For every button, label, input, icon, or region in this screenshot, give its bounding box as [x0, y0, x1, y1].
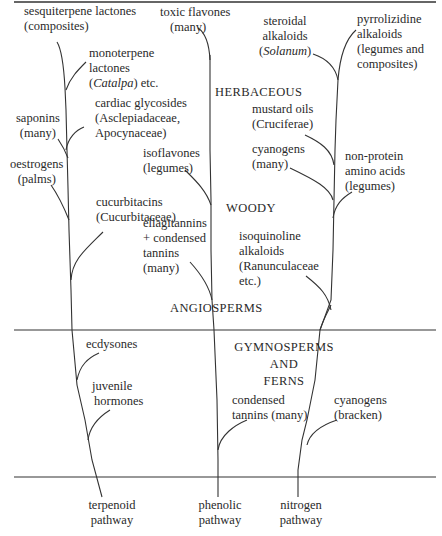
label-sesquiterpene-lactones: sesquiterpene lactones (composites): [24, 4, 136, 34]
branch-oestrogens: [51, 185, 69, 220]
label-juvenile-hormones: juvenile hormones: [92, 379, 143, 409]
label-monoterpene-lactones: monoterpene lactones (Catalpa) etc.: [89, 46, 158, 91]
label-toxic-flavones: toxic flavones (many): [160, 5, 230, 35]
section-gymnosperms-and-ferns: GYMNOSPERMS AND FERNS: [224, 339, 344, 390]
branch-cucurbitacins: [71, 232, 103, 280]
branch-cyanogens-bracken: [307, 420, 337, 445]
branch-steroidal: [313, 54, 338, 80]
tree-lines: [0, 0, 442, 536]
label-non-protein-amino-acids: non-protein amino acids (legumes): [345, 149, 405, 194]
label-phenolic-pathway: phenolic pathway: [192, 498, 248, 528]
branch-juvenile: [88, 410, 110, 440]
label-cardiac-glycosides: cardiac glycosides (Asclepiadaceae, Apoc…: [95, 96, 187, 141]
label-cyanogens-bracken: cyanogens (bracken): [334, 393, 387, 423]
branch-sesquiterpene: [57, 42, 65, 88]
label-cyanogens-many: cyanogens (many): [252, 142, 305, 172]
branch-non-protein: [333, 192, 352, 218]
label-pyrrolizidine-alkaloids: pyrrolizidine alkaloids (legumes and com…: [357, 12, 424, 72]
label-isoquinoline-alkaloids: isoquinoline alkaloids (Ranunculaceae et…: [239, 229, 319, 289]
phenolic-trunk: [210, 55, 218, 497]
branch-monoterpene: [66, 62, 86, 90]
label-ellagitannins: ellagitannins + condensed tannins (many): [143, 216, 207, 276]
label-isoflavones: isoflavones (legumes): [143, 146, 200, 176]
branch-ecdysones: [77, 353, 99, 380]
label-ecdysones: ecdysones: [86, 337, 137, 352]
branch-cardiac: [66, 127, 84, 150]
terpenoid-trunk: [65, 88, 102, 497]
branch-mustard: [305, 135, 334, 165]
label-nitrogen-pathway: nitrogen pathway: [273, 498, 329, 528]
branch-condensed-tannins: [218, 420, 247, 450]
secondary-compound-evolution-diagram: sesquiterpene lactones (composites) mono…: [0, 0, 442, 536]
label-steroidal-alkaloids: steroidal alkaloids (Solanum): [259, 14, 311, 59]
bridge-curve: [320, 305, 331, 330]
label-oestrogens: oestrogens (palms): [10, 157, 63, 187]
section-herbaceous: HERBACEOUS: [215, 84, 302, 101]
label-condensed-tannins: condensed tannins (many): [232, 393, 307, 423]
label-terpenoid-pathway: terpenoid pathway: [82, 498, 142, 528]
section-woody: WOODY: [226, 200, 276, 217]
label-saponins: saponins (many): [16, 111, 60, 141]
branch-cyanogens-many: [290, 168, 333, 200]
section-angiosperms: ANGIOSPERMS: [170, 300, 263, 317]
branch-pyrrolizidine: [338, 30, 356, 80]
label-mustard-oils: mustard oils (Cruciferae): [252, 102, 313, 132]
